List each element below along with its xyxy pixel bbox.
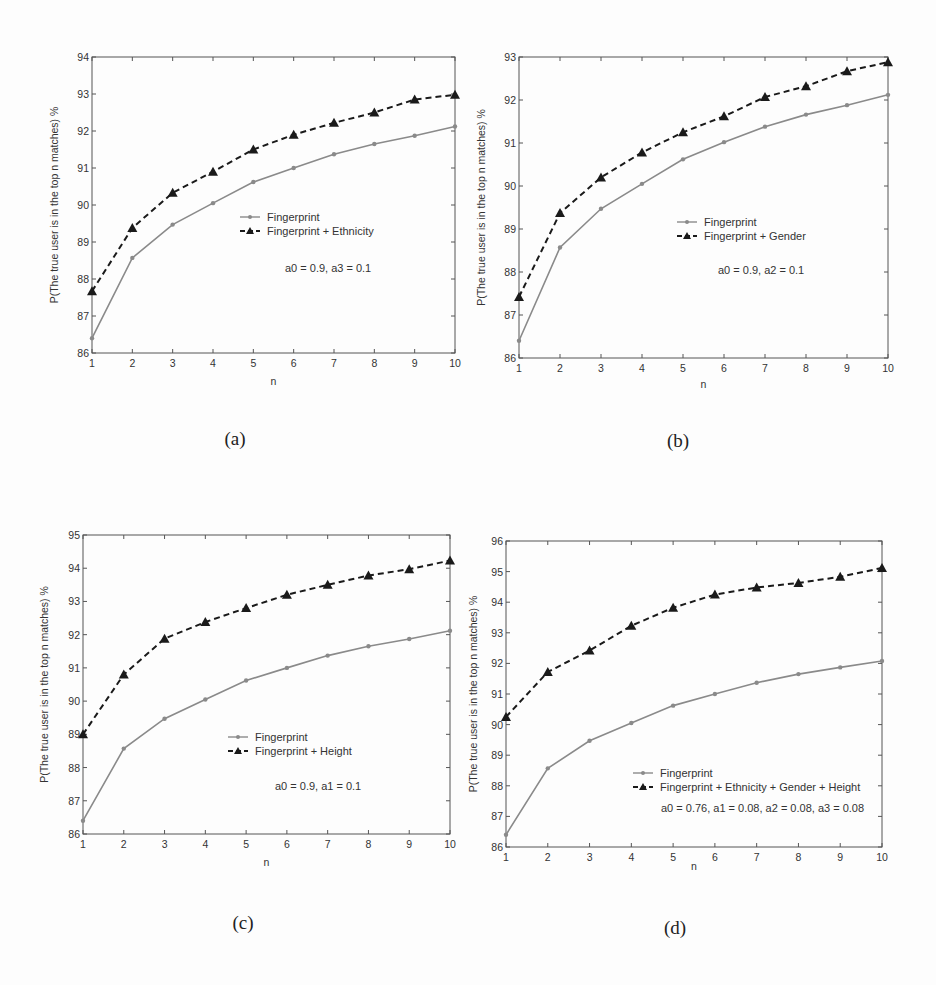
y-tick-label: 93	[491, 627, 503, 639]
triangle-marker	[877, 563, 887, 572]
circle-marker	[629, 721, 633, 725]
x-tick-label: 10	[876, 851, 888, 863]
y-tick-label: 91	[491, 688, 503, 700]
y-tick-label: 88	[491, 780, 503, 792]
legend-label: Fingerprint	[660, 767, 713, 779]
legend-label: Fingerprint + Ethnicity + Gender + Heigh…	[660, 781, 860, 793]
y-tick-label: 86	[491, 841, 503, 853]
x-tick-label: 2	[545, 851, 551, 863]
circle-marker	[754, 680, 758, 684]
circle-marker	[587, 739, 591, 743]
circle-marker	[838, 665, 842, 669]
circle-marker	[880, 659, 884, 663]
triangle-marker	[585, 646, 595, 655]
x-axis-label: n	[691, 860, 697, 872]
x-tick-label: 1	[503, 851, 509, 863]
y-tick-label: 92	[491, 657, 503, 669]
circle-marker	[546, 766, 550, 770]
y-axis-label: P(The true user is in the top n matches)…	[467, 596, 479, 793]
y-tick-label: 94	[491, 596, 503, 608]
circle-marker	[671, 703, 675, 707]
y-tick-label: 89	[491, 749, 503, 761]
triangle-marker	[543, 667, 553, 676]
circle-marker	[796, 672, 800, 676]
x-tick-label: 9	[837, 851, 843, 863]
line-chart-d: 123456789108687888990919293949596nP(The …	[0, 0, 936, 985]
series-line-combined	[506, 568, 882, 717]
y-tick-label: 87	[491, 810, 503, 822]
circle-marker	[713, 692, 717, 696]
x-tick-label: 3	[587, 851, 593, 863]
x-tick-label: 7	[754, 851, 760, 863]
weights-annotation: a0 = 0.76, a1 = 0.08, a2 = 0.08, a3 = 0.…	[661, 802, 864, 814]
triangle-marker	[710, 590, 720, 599]
caption-d: (d)	[664, 917, 686, 939]
x-tick-label: 4	[628, 851, 634, 863]
triangle-marker	[835, 572, 845, 581]
y-tick-label: 96	[491, 535, 503, 547]
x-tick-label: 6	[712, 851, 718, 863]
x-tick-label: 5	[670, 851, 676, 863]
legend-circle-icon	[641, 771, 645, 775]
x-tick-label: 8	[796, 851, 802, 863]
y-tick-label: 95	[491, 566, 503, 578]
circle-marker	[504, 833, 508, 837]
